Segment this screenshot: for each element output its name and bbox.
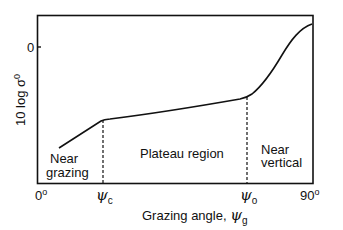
backscatter-curve	[59, 24, 312, 148]
x-tick-label-90: 90o	[300, 187, 319, 203]
x-tick-label-psi-c: ψc	[96, 186, 113, 206]
y-axis-label: 10 log σ0	[12, 74, 28, 126]
chart: 0 10 log σ0 Neargrazing Plateau region N…	[0, 0, 343, 230]
region-label-near-vertical: Nearvertical	[261, 142, 302, 170]
region-label-plateau: Plateau region	[140, 146, 224, 161]
x-axis-label: Grazing angle, ψg	[142, 206, 248, 226]
region-label-near-grazing: Neargrazing	[46, 151, 89, 180]
x-tick-label-psi-o: ψo	[240, 186, 258, 206]
y-tick-label-0: 0	[27, 40, 34, 55]
x-tick-label-0: 0o	[35, 187, 47, 203]
